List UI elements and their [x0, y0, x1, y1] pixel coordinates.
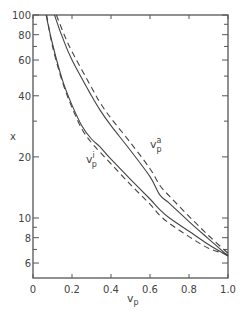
y-tick-label: 20	[18, 152, 31, 163]
x-axis-ticks: 00.20.40.60.81.0	[30, 15, 236, 295]
curve-vpa-solid	[55, 15, 229, 256]
annotation-vpi: vip	[86, 151, 97, 169]
y-tick-label: 60	[18, 55, 31, 66]
y-axis-label: x	[10, 131, 16, 142]
y-tick-label: 100	[12, 10, 31, 21]
y-axis-ticks: 100806040201086	[12, 10, 228, 269]
y-tick-label: 10	[18, 213, 31, 224]
x-tick-label: 0.2	[64, 284, 80, 295]
chart: 00.20.40.60.81.0 100806040201086 vp x va…	[0, 0, 245, 315]
x-tick-label: 0.4	[103, 284, 119, 295]
x-axis-label: vp	[127, 292, 139, 307]
curve-vpi-solid	[46, 15, 228, 256]
x-tick-label: 0	[30, 284, 36, 295]
x-tick-label: 1.0	[220, 284, 236, 295]
x-tick-label: 0.8	[181, 284, 197, 295]
y-tick-label: 80	[18, 30, 31, 41]
y-tick-label: 40	[18, 91, 31, 102]
curve-vpa-dashed	[56, 15, 228, 253]
annotation-vpa: vap	[150, 136, 162, 154]
curves	[46, 15, 228, 256]
y-tick-label: 6	[25, 258, 31, 269]
curve-vpi-dashed	[47, 15, 228, 255]
y-tick-label: 8	[25, 233, 31, 244]
x-tick-label: 0.6	[142, 284, 158, 295]
